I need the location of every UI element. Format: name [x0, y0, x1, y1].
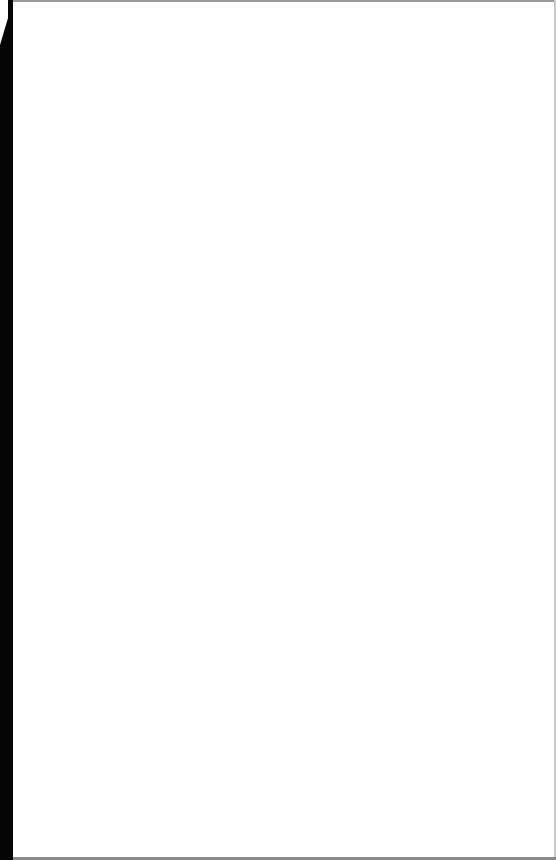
scan-left-shadow	[0, 0, 13, 860]
scanned-page	[0, 0, 556, 860]
blank-paper-sheet	[13, 2, 554, 857]
